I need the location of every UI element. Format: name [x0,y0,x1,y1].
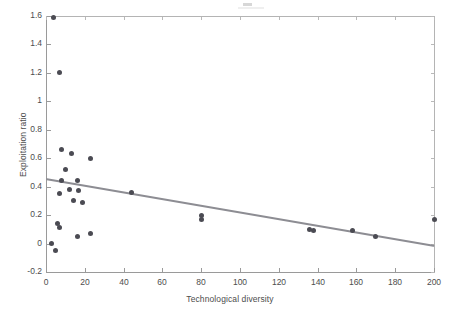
data-point [432,217,437,222]
x-tick [318,268,319,272]
x-tick [124,268,125,272]
x-tick-mirror [85,17,86,20]
x-tick-mirror [318,17,319,20]
y-tick [47,73,51,74]
x-tick-mirror [356,17,357,20]
y-axis-title: Exploitation ratio [18,112,28,177]
x-tick-label: 160 [336,278,376,287]
y-tick-label: 1 [8,96,42,105]
y-tick-mirror [431,215,434,216]
scan-artifact-smudge [238,7,264,9]
y-tick-label: -0.2 [8,267,42,276]
y-tick-mirror [431,272,434,273]
x-tick-mirror [240,17,241,20]
data-point [63,167,68,172]
data-point [311,228,316,233]
y-tick-label: 0.2 [8,210,42,219]
x-tick-label: 40 [104,278,144,287]
x-tick-label: 60 [142,278,182,287]
x-tick [85,268,86,272]
data-point [51,15,56,20]
data-point [88,156,93,161]
x-tick-label: 100 [220,278,260,287]
x-tick-mirror [434,17,435,20]
data-point [76,188,81,193]
y-tick [47,272,51,273]
y-tick-label: 1.2 [8,68,42,77]
x-tick [201,268,202,272]
plot-frame-right [434,16,435,273]
y-tick-label: 1.4 [8,39,42,48]
y-tick-label: 1.6 [8,11,42,20]
y-tick [47,187,51,188]
y-tick-label: 0 [8,239,42,248]
data-point [88,231,93,236]
data-point [129,190,134,195]
x-tick-mirror [201,17,202,20]
data-point [199,217,204,222]
data-point [57,225,62,230]
x-tick-mirror [395,17,396,20]
y-tick-mirror [431,158,434,159]
data-point [71,198,76,203]
data-point [69,151,74,156]
x-tick-mirror [279,17,280,20]
x-tick-label: 0 [26,278,66,287]
scan-artifact-mark [243,3,252,6]
y-tick-label: 0.6 [8,153,42,162]
x-tick [162,268,163,272]
x-tick [240,268,241,272]
x-tick-label: 180 [375,278,415,287]
y-tick-mirror [431,101,434,102]
y-tick [47,130,51,131]
x-tick-label: 120 [259,278,299,287]
y-tick [47,44,51,45]
y-tick [47,158,51,159]
x-tick-label: 20 [65,278,105,287]
data-point [75,234,80,239]
x-tick-label: 200 [414,278,454,287]
x-tick [434,268,435,272]
x-tick [356,268,357,272]
data-point [59,147,64,152]
x-tick [395,268,396,272]
x-tick [46,268,47,272]
x-tick [279,268,280,272]
y-tick-mirror [431,187,434,188]
x-tick-mirror [124,17,125,20]
x-axis-title: Technological diversity [0,294,460,304]
x-axis-line [46,272,435,273]
scatter-plot-figure: Exploitation ratio Technological diversi… [0,0,460,320]
x-tick-mirror [162,17,163,20]
y-tick-mirror [431,44,434,45]
data-point [57,70,62,75]
y-tick-mirror [431,130,434,131]
x-tick-mirror [46,17,47,20]
y-axis-line [46,16,47,273]
y-tick-label: 0.8 [8,125,42,134]
data-point [373,234,378,239]
x-tick-label: 140 [298,278,338,287]
data-point [49,241,54,246]
y-tick-mirror [431,73,434,74]
y-tick-label: 0.4 [8,182,42,191]
data-point [57,191,62,196]
y-tick [47,215,51,216]
y-tick [47,101,51,102]
data-point [67,187,72,192]
data-point [80,200,85,205]
x-tick-label: 80 [181,278,221,287]
data-point [53,248,58,253]
